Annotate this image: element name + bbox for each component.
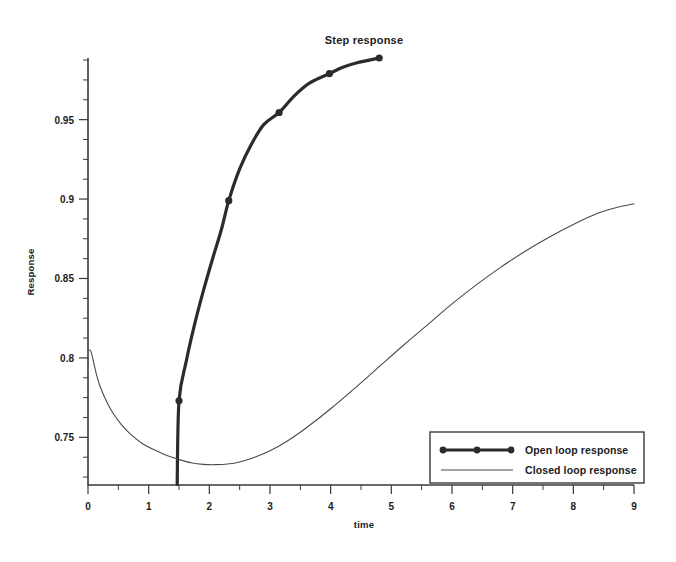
y-axis-label: Response: [25, 248, 36, 295]
data-point-marker: [276, 109, 283, 116]
step-response-chart: Step response 0.750.80.850.90.95 0123456…: [0, 0, 676, 562]
x-tick-label: 4: [328, 501, 334, 512]
legend-marker-open-1: [440, 447, 447, 454]
chart-legend[interactable]: Open loop response Closed loop response: [430, 432, 644, 483]
y-tick-label: 0.8: [60, 353, 74, 364]
x-tick-label: 0: [85, 501, 91, 512]
y-tick-label: 0.75: [55, 432, 75, 443]
legend-marker-open-2: [474, 447, 481, 454]
data-point-marker: [326, 70, 333, 77]
x-tick-label: 5: [389, 501, 395, 512]
x-tick-label: 8: [571, 501, 577, 512]
data-point-marker: [225, 197, 232, 204]
y-tick-label: 0.95: [55, 115, 75, 126]
chart-figure: Step response 0.750.80.850.90.95 0123456…: [0, 0, 676, 562]
legend-label-open-loop: Open loop response: [525, 444, 628, 456]
y-tick-label: 0.9: [60, 194, 74, 205]
x-tick-label: 6: [449, 501, 455, 512]
data-point-marker: [175, 397, 182, 404]
x-tick-label: 9: [631, 501, 637, 512]
x-tick-label: 1: [146, 501, 152, 512]
data-point-marker: [376, 54, 383, 61]
x-tick-label: 3: [267, 501, 273, 512]
x-tick-label: 2: [207, 501, 213, 512]
legend-label-closed-loop: Closed loop response: [525, 464, 637, 476]
chart-title: Step response: [325, 34, 403, 46]
legend-marker-open-3: [508, 447, 515, 454]
x-axis-label: time: [354, 519, 374, 530]
y-tick-label: 0.85: [55, 273, 75, 284]
x-tick-label: 7: [510, 501, 516, 512]
